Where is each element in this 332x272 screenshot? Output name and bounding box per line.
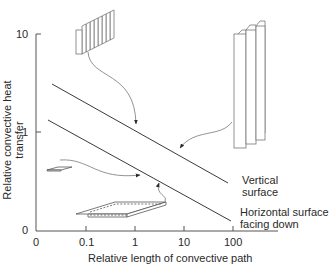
arrow-fins-to-vertical <box>88 52 136 124</box>
x-tick-label-0: 0 <box>33 236 39 248</box>
x-tick-label-1: 1 <box>132 236 138 248</box>
short-fin-stack-icon <box>76 10 114 54</box>
large-horizontal-plate-icon <box>76 202 166 217</box>
arrow-large-plate-to-horizontal <box>158 183 165 201</box>
x-axis-title: Relative length of convective path <box>88 252 253 264</box>
vertical-surface-label-line2: surface <box>242 186 278 198</box>
horizontal-surface-label-line2: facing down <box>240 218 299 230</box>
x-tick-label-10: 10 <box>178 236 190 248</box>
small-horizontal-plate-icon <box>47 167 72 171</box>
arrow-small-plate-to-horizontal <box>60 160 140 176</box>
y-axis-title: Relative convective heat transfer <box>1 65 25 215</box>
tall-vertical-plates-icon <box>234 21 265 148</box>
arrow-tall-plates-to-vertical <box>180 122 232 148</box>
arrows <box>60 52 232 201</box>
diagram-canvas <box>0 0 332 272</box>
vertical-surface-line <box>52 84 228 183</box>
x-tick-label-100: 100 <box>224 236 242 248</box>
horizontal-surface-label-line1: Horizontal surface <box>240 206 329 218</box>
vertical-surface-label-line1: Vertical <box>242 174 278 186</box>
x-tick-label-0.1: 0.1 <box>79 236 94 248</box>
y-tick-label-10: 10 <box>16 28 28 40</box>
y-tick-label-0: 0 <box>22 224 28 236</box>
